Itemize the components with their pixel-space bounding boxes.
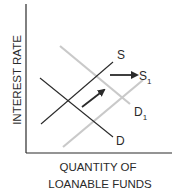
x-axis-label-line1: QUANTITY OF [59, 161, 136, 173]
label-d1: D1 [134, 105, 148, 122]
curve-d [40, 78, 113, 137]
x-axis-label-line2: LOANABLE FUNDS [48, 178, 152, 190]
label-s: S [117, 48, 125, 62]
y-axis-label: INTEREST RATE [11, 35, 23, 125]
label-d: D [116, 134, 125, 148]
label-s1: S1 [139, 69, 152, 86]
demand-shift-arrow [82, 90, 104, 107]
loanable-funds-diagram: S D S1 D1 INTEREST RATE QUANTITY OF LOAN… [0, 0, 176, 192]
